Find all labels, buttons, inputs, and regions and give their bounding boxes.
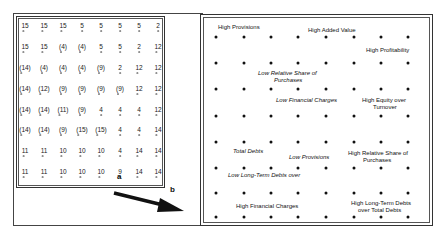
- cell-dot-icon: [98, 93, 100, 95]
- cell-dot-icon: [81, 30, 83, 32]
- map-node-icon: [380, 167, 383, 170]
- grid-cell: 10: [59, 147, 66, 154]
- grid-cell: (4): [40, 64, 48, 71]
- cell-dot-icon: [119, 72, 121, 74]
- grid-cell: 14: [154, 168, 161, 175]
- map-region-label: High Long-Term Debts: [351, 200, 411, 207]
- map-node-icon: [243, 62, 246, 65]
- cell-dot-icon: [79, 176, 81, 178]
- map-node-icon: [353, 115, 356, 118]
- cell-dot-icon: [22, 51, 24, 53]
- cell-dot-icon: [79, 114, 81, 116]
- grid-cell: (14): [19, 126, 31, 133]
- grid-cell: 14: [154, 147, 161, 154]
- cell-dot-icon: [100, 51, 102, 53]
- map-node-icon: [297, 36, 300, 39]
- map-node-icon: [270, 167, 273, 170]
- map-region-label: Low Provisions: [289, 154, 329, 161]
- map-node-icon: [215, 36, 218, 39]
- grid-cell: (9): [59, 126, 67, 133]
- cell-dot-icon: [119, 134, 121, 136]
- cell-dot-icon: [157, 30, 159, 32]
- cell-dot-icon: [79, 155, 81, 157]
- map-node-icon: [243, 88, 246, 91]
- cell-dot-icon: [23, 155, 25, 157]
- grid-cell: 14: [135, 147, 142, 154]
- cell-dot-icon: [155, 134, 157, 136]
- grid-cell: 15: [40, 22, 47, 29]
- cell-dot-icon: [96, 134, 98, 136]
- grid-cell: (14): [38, 126, 50, 133]
- map-node-icon: [243, 216, 246, 219]
- cell-dot-icon: [100, 114, 102, 116]
- map-node-icon: [215, 192, 218, 195]
- grid-cell: 14: [154, 126, 161, 133]
- map-node-icon: [353, 36, 356, 39]
- outer-frame-top: [13, 13, 203, 14]
- cell-dot-icon: [39, 134, 41, 136]
- map-node-icon: [407, 141, 410, 144]
- grid-cell: 4: [118, 126, 122, 133]
- cell-dot-icon: [58, 114, 60, 116]
- cell-dot-icon: [60, 176, 62, 178]
- map-region-label: Low Long-Term Debts over: [228, 172, 300, 179]
- map-node-icon: [353, 62, 356, 65]
- grid-cell: 11: [41, 147, 48, 154]
- map-node-icon: [407, 36, 410, 39]
- grid-cell: 4: [137, 126, 141, 133]
- grid-cell: 15: [59, 22, 66, 29]
- grid-cell: (15): [95, 126, 107, 133]
- arrow-label-a: a: [117, 172, 121, 181]
- map-node-icon: [353, 88, 356, 91]
- cell-dot-icon: [41, 72, 43, 74]
- grid-cell: 12: [154, 43, 161, 50]
- cell-dot-icon: [60, 155, 62, 157]
- map-node-icon: [353, 141, 356, 144]
- map-node-icon: [270, 88, 273, 91]
- cell-dot-icon: [42, 176, 44, 178]
- map-node-icon: [297, 141, 300, 144]
- grid-cell: 5: [118, 22, 122, 29]
- cell-dot-icon: [98, 155, 100, 157]
- map-node-icon: [270, 115, 273, 118]
- cell-dot-icon: [20, 114, 22, 116]
- grid-cell: 4: [118, 106, 122, 113]
- grid-cell: 5: [80, 22, 84, 29]
- map-node-icon: [325, 192, 328, 195]
- grid-cell: 4: [99, 106, 103, 113]
- grid-cell: (14): [38, 106, 50, 113]
- map-node-icon: [380, 88, 383, 91]
- map-region-label: over Total Debts: [358, 207, 401, 214]
- map-node-icon: [297, 167, 300, 170]
- map-node-icon: [270, 62, 273, 65]
- map-node-icon: [325, 167, 328, 170]
- map-region-label: High Financial Charges: [236, 203, 298, 210]
- grid-cell: (14): [19, 85, 31, 92]
- map-node-icon: [380, 36, 383, 39]
- grid-cell: (9): [97, 85, 105, 92]
- grid-cell: (14): [19, 64, 31, 71]
- grid-cell: (4): [59, 64, 67, 71]
- cell-dot-icon: [119, 155, 121, 157]
- map-node-icon: [380, 192, 383, 195]
- grid-cell: 2: [137, 43, 141, 50]
- map-node-icon: [380, 62, 383, 65]
- map-node-icon: [243, 36, 246, 39]
- grid-cell: 10: [78, 147, 85, 154]
- cell-dot-icon: [60, 134, 62, 136]
- map-node-icon: [353, 192, 356, 195]
- map-node-icon: [270, 36, 273, 39]
- map-node-icon: [407, 62, 410, 65]
- map-node-icon: [297, 62, 300, 65]
- map-region-label: Low Relative Share of: [258, 70, 317, 77]
- grid-cell: 2: [118, 64, 122, 71]
- grid-cell: 12: [154, 85, 161, 92]
- map-node-icon: [380, 141, 383, 144]
- grid-cell: 12: [135, 64, 142, 71]
- grid-cell: (9): [116, 85, 124, 92]
- map-node-icon: [297, 192, 300, 195]
- cell-dot-icon: [155, 114, 157, 116]
- cell-dot-icon: [60, 72, 62, 74]
- grid-cell: (12): [38, 85, 50, 92]
- cell-dot-icon: [20, 93, 22, 95]
